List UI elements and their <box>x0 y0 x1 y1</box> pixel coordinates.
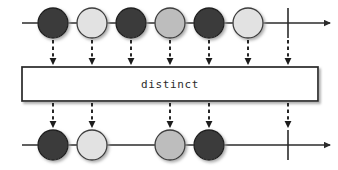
operator-label: distinct <box>141 78 199 91</box>
result-marble-3[interactable] <box>155 130 185 160</box>
marble-diagram: distinct <box>0 0 338 170</box>
output-dashed-arrows <box>53 103 288 127</box>
result-marble-2[interactable] <box>77 130 107 160</box>
input-dashed-arrows <box>53 40 288 64</box>
source-marble-3[interactable] <box>116 8 146 38</box>
result-marble-1[interactable] <box>38 130 68 160</box>
source-marble-6[interactable] <box>233 8 263 38</box>
source-marble-4[interactable] <box>155 8 185 38</box>
source-timeline <box>22 8 330 38</box>
result-marble-4[interactable] <box>194 130 224 160</box>
source-marble-2[interactable] <box>77 8 107 38</box>
source-marble-1[interactable] <box>38 8 68 38</box>
distinct-operator-box[interactable]: distinct <box>22 67 318 101</box>
source-marble-5[interactable] <box>194 8 224 38</box>
marble-diagram-canvas: distinct <box>0 0 338 170</box>
result-timeline <box>22 130 330 160</box>
